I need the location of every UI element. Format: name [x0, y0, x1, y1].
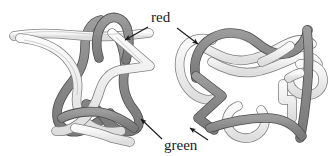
knot-diagram-figure: red green	[0, 0, 333, 156]
right-knot-diagram	[180, 30, 323, 138]
green-label: green	[164, 137, 198, 153]
figure-canvas: red green	[0, 0, 333, 156]
red-label: red	[151, 9, 171, 25]
green-arrow-left	[141, 119, 162, 139]
left-knot-diagram	[14, 17, 150, 142]
